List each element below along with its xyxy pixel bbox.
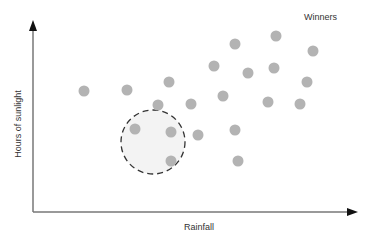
data-point [271,31,282,42]
x-axis [33,208,358,216]
data-point [209,61,220,72]
y-axis-arrow-icon [29,20,37,31]
x-axis-arrow-icon [347,208,358,216]
data-point [153,100,164,111]
data-point [193,130,204,141]
data-point [130,124,141,135]
data-point [186,99,197,110]
data-point [230,125,241,136]
data-point [166,156,177,167]
data-points [79,31,319,167]
data-point [263,97,274,108]
data-point [218,91,229,102]
data-point [230,39,241,50]
highlight-circle [121,110,185,174]
data-point [79,86,90,97]
highlight-dashed-circle [121,110,185,174]
data-point [269,63,280,74]
data-point [308,46,319,57]
y-axis-label: Hours of sunlight [13,90,23,158]
scatter-chart [0,0,376,240]
data-point [302,77,313,88]
data-point [243,68,254,79]
data-point [295,99,306,110]
data-point [166,127,177,138]
y-axis [29,20,37,212]
x-axis-label: Rainfall [184,222,214,232]
data-point [233,156,244,167]
winners-annotation: Winners [304,12,337,22]
data-point [122,85,133,96]
data-point [164,77,175,88]
